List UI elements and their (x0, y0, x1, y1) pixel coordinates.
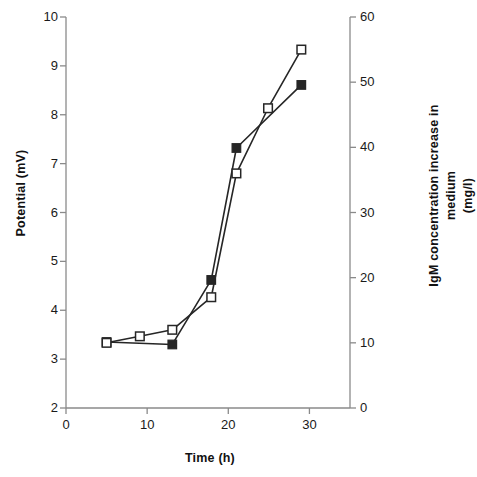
data-point-filled-square (168, 340, 177, 349)
y-axis-left-tick-label: 5 (32, 253, 58, 268)
data-point-open-square (168, 326, 177, 335)
y-axis-right-tick-label: 0 (360, 400, 386, 415)
y-axis-left-tick-label: 10 (32, 9, 58, 24)
data-point-open-square (232, 169, 241, 178)
y-axis-right-title: IgM concentration increase in medium (mg… (426, 81, 477, 311)
y-axis-left-tick-label: 7 (32, 156, 58, 171)
y-axis-right-tick-label: 50 (360, 74, 386, 89)
y-axis-right-title-line1: IgM concentration increase in medium (427, 104, 458, 286)
chart-series-layer (102, 45, 305, 348)
y-axis-right-tick-label: 60 (360, 9, 386, 24)
data-point-filled-square (297, 81, 306, 90)
y-axis-right-tick-label: 30 (360, 205, 386, 220)
y-axis-left-tick-label: 4 (32, 302, 58, 317)
x-axis-tick-label: 0 (51, 417, 81, 432)
x-axis-tick-label: 20 (213, 417, 243, 432)
series-line (107, 50, 302, 343)
data-point-filled-square (232, 144, 241, 153)
x-axis-title: Time (h) (150, 451, 270, 465)
y-axis-left-tick-label: 8 (32, 107, 58, 122)
y-axis-right-tick-label: 10 (360, 335, 386, 350)
y-axis-left-tick-label: 2 (32, 400, 58, 415)
data-point-open-square (264, 104, 273, 113)
series-line (107, 85, 302, 345)
x-axis-tick-label: 10 (132, 417, 162, 432)
data-point-open-square (102, 339, 111, 348)
y-axis-left-tick-label: 9 (32, 58, 58, 73)
x-axis-tick-label: 30 (294, 417, 324, 432)
y-axis-right-title-line2: (mg/l) (461, 178, 475, 213)
data-point-open-square (136, 332, 145, 341)
y-axis-left-title: Potential (mV) (14, 118, 28, 268)
y-axis-left-tick-label: 6 (32, 205, 58, 220)
chart-series-1 (102, 81, 305, 349)
y-axis-right-tick-label: 40 (360, 139, 386, 154)
data-point-open-square (207, 293, 216, 302)
data-point-open-square (297, 45, 306, 54)
chart-series-2 (102, 45, 305, 347)
y-axis-right-tick-label: 20 (360, 270, 386, 285)
y-axis-left-tick-label: 3 (32, 351, 58, 366)
chart-axes (60, 17, 356, 414)
